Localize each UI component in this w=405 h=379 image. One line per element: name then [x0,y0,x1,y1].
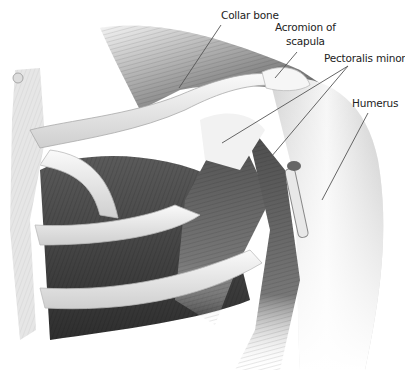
label-collar-bone: Collar bone [221,8,279,22]
label-acromion-line1: Acromion of [275,20,336,34]
label-humerus: Humerus [352,96,398,110]
pectoralis-minor-muscle [175,113,300,370]
acromion [262,68,310,91]
label-acromion: Acromion of scapula [275,20,336,48]
sternum [10,68,45,340]
label-pectoralis-minor: Pectoralis minor [324,51,405,65]
label-acromion-line2: scapula [275,34,336,48]
